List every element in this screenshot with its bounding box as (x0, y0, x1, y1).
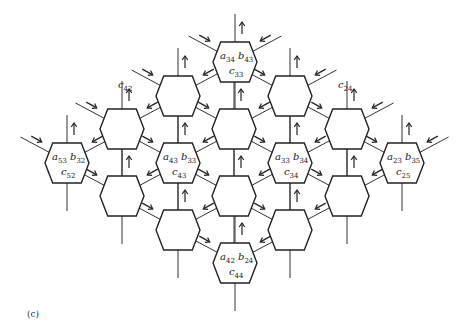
arrow-icon (71, 123, 77, 135)
arrow-icon (31, 136, 42, 142)
arrow-icon (260, 236, 271, 242)
arrow-icon (254, 136, 265, 142)
diagonal-connector (307, 70, 337, 86)
figure-caption: (c) (27, 309, 39, 319)
processing-cell-r2c2 (268, 76, 312, 116)
arrow-icon (203, 136, 214, 142)
processing-cell-r4c4: a23b35c25 (380, 143, 424, 183)
hexagon-cell (325, 109, 369, 149)
arrow-icon (254, 69, 265, 75)
arrow-icon (372, 102, 383, 108)
arrow-icon (366, 136, 377, 142)
arrow-icon (259, 102, 270, 108)
arrow-icon (315, 69, 326, 75)
processing-cell-r5c1 (100, 176, 144, 216)
arrow-icon (86, 102, 97, 108)
diagonal-connector (189, 36, 219, 52)
diagonal-connector (132, 70, 162, 86)
arrow-icon (427, 136, 438, 142)
arrow-icon (254, 203, 265, 209)
arrow-icon (203, 69, 214, 75)
diagonal-connector (364, 103, 394, 119)
arrow-icon (238, 89, 244, 101)
arrow-icon (311, 102, 322, 108)
hexagon-cell (268, 76, 312, 116)
arrow-icon (142, 203, 153, 209)
arrow-icon (203, 203, 214, 209)
hexagon-cell (100, 109, 144, 149)
processing-cell-r5c3 (325, 176, 369, 216)
arrow-icon (199, 236, 210, 242)
diagonal-connector (419, 137, 449, 153)
arrow-icon (182, 190, 188, 202)
arrow-icon (142, 136, 153, 142)
arrow-icon (238, 156, 244, 168)
hexagon-cell (156, 76, 200, 116)
diagonal-connector (21, 137, 51, 153)
processing-cell-r6c2 (268, 210, 312, 250)
arrow-icon (239, 223, 245, 235)
arrow-icon (198, 169, 209, 175)
hexagon-cell (212, 176, 256, 216)
arrow-icon (315, 203, 326, 209)
arrow-icon (259, 169, 270, 175)
diagonal-connector (252, 36, 282, 52)
systolic-array-diagram: a34b43c33a53b32c52a43b33c43a33b34c34a23b… (0, 0, 475, 333)
arrow-icon (182, 123, 188, 135)
output-label: c24 (338, 79, 353, 93)
processing-cell-r5c2 (212, 176, 256, 216)
hexagon-cell (325, 176, 369, 216)
processing-cell-r4c1: a53b32c52 (45, 143, 89, 183)
processing-cell-r7c1: a42b24c44 (213, 243, 257, 283)
arrow-icon (294, 190, 300, 202)
processing-cell-r4c2: a43b33c43 (156, 143, 200, 183)
processing-cell-r4c3: a33b34c34 (268, 143, 312, 183)
arrow-icon (198, 102, 209, 108)
hexagon-cell (268, 210, 312, 250)
arrow-icon (294, 56, 300, 68)
arrow-icon (311, 169, 322, 175)
processing-cell-r6c1 (156, 210, 200, 250)
arrow-icon (147, 169, 158, 175)
arrow-icon (142, 69, 153, 75)
processing-cell-r3c3 (325, 109, 369, 149)
diagonal-connector (76, 103, 106, 119)
arrow-icon (86, 169, 97, 175)
arrow-icon (239, 22, 245, 34)
processing-cell-r3c2 (212, 109, 256, 149)
arrow-icon (406, 123, 412, 135)
arrow-icon (260, 35, 271, 41)
arrow-icon (147, 102, 158, 108)
processing-cell-r3c1 (100, 109, 144, 149)
arrow-icon (294, 123, 300, 135)
arrow-icon (182, 56, 188, 68)
arrow-icon (372, 169, 383, 175)
arrow-icon (92, 136, 103, 142)
arrow-icon (315, 136, 326, 142)
processing-cell-r2c1 (156, 76, 200, 116)
arrow-icon (351, 156, 357, 168)
output-label: c42 (118, 79, 133, 93)
hexagon-cell (212, 109, 256, 149)
hexagon-cell (156, 210, 200, 250)
hexagon-cell (100, 176, 144, 216)
arrow-icon (126, 156, 132, 168)
arrow-icon (199, 35, 210, 41)
processing-cell-r1c1: a34b43c33 (213, 42, 257, 82)
